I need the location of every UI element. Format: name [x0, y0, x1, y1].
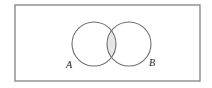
venn-diagram-canvas: A B	[0, 0, 212, 88]
label-b: B	[149, 57, 155, 68]
label-a: A	[65, 59, 73, 70]
venn-diagram-figure: A B	[0, 0, 212, 88]
